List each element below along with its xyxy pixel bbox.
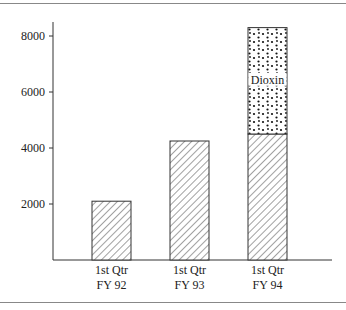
y-tick-label: 6000 xyxy=(21,85,45,99)
bars xyxy=(92,28,287,260)
x-tick-label: FY 92 xyxy=(97,278,127,292)
bar-base-2 xyxy=(248,134,287,260)
y-tick-label: 4000 xyxy=(21,141,45,155)
x-tick-label: 1st Qtr xyxy=(173,263,206,277)
x-tick-label: FY 93 xyxy=(175,278,205,292)
x-tick-label: 1st Qtr xyxy=(251,263,284,277)
x-tick-label: FY 94 xyxy=(253,278,283,292)
x-tick-label: 1st Qtr xyxy=(95,263,128,277)
y-tick-label: 8000 xyxy=(21,29,45,43)
annotation-dioxin: Dioxin xyxy=(251,73,284,87)
bar-chart: 2000400060008000 1st QtrFY 921st QtrFY 9… xyxy=(0,0,346,310)
y-tick-label: 2000 xyxy=(21,197,45,211)
bar-base-1 xyxy=(170,141,209,260)
bar-base-0 xyxy=(92,201,131,260)
